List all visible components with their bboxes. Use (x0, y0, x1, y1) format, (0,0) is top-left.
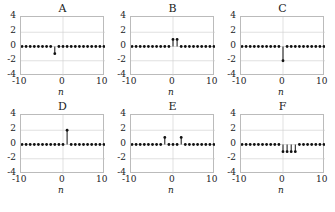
x-axis-label: n (278, 185, 284, 195)
plot-area (130, 16, 214, 75)
subplot-title: C (240, 2, 325, 15)
plot-area (240, 16, 324, 75)
x-axis-label: n (278, 87, 284, 97)
plot-area (20, 16, 104, 75)
subplot-c: C420-2-4-10010n (220, 2, 330, 102)
x-tick-label: 0 (169, 174, 175, 184)
y-tick-label: -2 (222, 152, 236, 162)
x-axis-label: n (58, 185, 64, 195)
x-axis-label: n (58, 87, 64, 97)
y-tick-label: -2 (2, 152, 16, 162)
subplot-title: A (20, 2, 105, 15)
y-tick-label: 4 (2, 108, 16, 118)
y-tick-label: -2 (222, 54, 236, 64)
x-axis-label: n (168, 185, 174, 195)
x-tick-label: 10 (316, 174, 327, 184)
x-tick-label: 0 (279, 76, 285, 86)
x-tick-label: 0 (169, 76, 175, 86)
plot-area (20, 114, 104, 173)
y-tick-label: 4 (112, 108, 126, 118)
subplot-a: A420-2-4-10010n (0, 2, 110, 102)
y-tick-label: 0 (2, 138, 16, 148)
y-tick-label: 2 (112, 123, 126, 133)
y-tick-label: 2 (222, 123, 236, 133)
y-tick-label: -2 (112, 152, 126, 162)
x-tick-label: -10 (12, 76, 27, 86)
x-tick-label: -10 (12, 174, 27, 184)
x-tick-label: 10 (206, 174, 217, 184)
x-tick-label: -10 (122, 174, 137, 184)
x-tick-label: 0 (59, 76, 65, 86)
y-tick-label: 4 (222, 10, 236, 20)
subplot-title: B (130, 2, 215, 15)
x-tick-label: 10 (96, 76, 107, 86)
x-tick-label: 10 (206, 76, 217, 86)
x-axis-label: n (168, 87, 174, 97)
subplot-title: F (240, 100, 325, 113)
y-tick-label: 2 (222, 25, 236, 35)
y-tick-label: 0 (112, 40, 126, 50)
y-tick-label: 4 (222, 108, 236, 118)
subplot-e: E420-2-4-10010n (110, 100, 220, 200)
y-tick-label: 0 (112, 138, 126, 148)
subplot-title: D (20, 100, 105, 113)
y-tick-label: 2 (2, 123, 16, 133)
plot-area (130, 114, 214, 173)
y-tick-label: 0 (222, 138, 236, 148)
y-tick-label: -2 (112, 54, 126, 64)
y-tick-label: 0 (222, 40, 236, 50)
plot-area (240, 114, 324, 173)
x-tick-label: 10 (96, 174, 107, 184)
x-tick-label: 10 (316, 76, 327, 86)
x-tick-label: -10 (232, 174, 247, 184)
x-tick-label: -10 (122, 76, 137, 86)
y-tick-label: 0 (2, 40, 16, 50)
y-tick-label: 2 (112, 25, 126, 35)
y-tick-label: 2 (2, 25, 16, 35)
x-tick-label: 0 (279, 174, 285, 184)
y-tick-label: 4 (112, 10, 126, 20)
subplot-title: E (130, 100, 215, 113)
x-tick-label: -10 (232, 76, 247, 86)
subplot-d: D420-2-4-10010n (0, 100, 110, 200)
x-tick-label: 0 (59, 174, 65, 184)
subplot-f: F420-2-4-10010n (220, 100, 330, 200)
subplot-b: B420-2-4-10010n (110, 2, 220, 102)
y-tick-label: 4 (2, 10, 16, 20)
y-tick-label: -2 (2, 54, 16, 64)
